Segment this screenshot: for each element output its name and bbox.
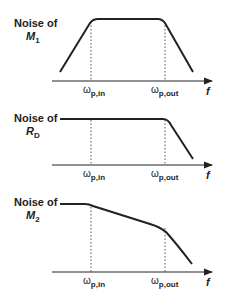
tick-subscript: p,out [159,89,179,98]
tick-omega-p-out: ωp,out [151,275,178,289]
plot2-title: Noise of [14,112,57,124]
variable-name: M [26,209,35,221]
x-axis-label: f [206,85,210,97]
tick-subscript: p,out [159,173,179,182]
omega-symbol: ω [151,84,159,95]
plot2-variable: RD [26,125,40,140]
plot-m1 [52,19,212,81]
omega-symbol: ω [83,84,91,95]
tick-omega-p-out: ωp,out [151,168,178,182]
noise-curve [60,204,192,264]
tick-omega-p-out: ωp,out [151,84,178,98]
tick-subscript: p,in [91,280,105,289]
plot1-variable: M1 [26,30,40,45]
tick-omega-p-in: ωp,in [83,168,105,182]
omega-symbol: ω [151,275,159,286]
omega-symbol: ω [151,168,159,179]
plot-m2 [52,204,212,272]
variable-subscript: 2 [35,215,39,224]
plot3-title: Noise of [14,196,57,208]
noise-curve [60,119,193,159]
noise-curve [60,19,193,72]
tick-omega-p-in: ωp,in [83,84,105,98]
plot1-title: Noise of [14,17,57,29]
x-axis-label: f [206,169,210,181]
variable-name: R [26,125,34,137]
variable-subscript: D [34,131,40,140]
x-axis-label: f [206,276,210,288]
variable-subscript: 1 [35,36,39,45]
tick-subscript: p,in [91,173,105,182]
omega-symbol: ω [83,275,91,286]
variable-name: M [26,30,35,42]
plot-rd [52,119,212,165]
tick-subscript: p,in [91,89,105,98]
omega-symbol: ω [83,168,91,179]
tick-omega-p-in: ωp,in [83,275,105,289]
tick-subscript: p,out [159,280,179,289]
plot3-variable: M2 [26,209,40,224]
